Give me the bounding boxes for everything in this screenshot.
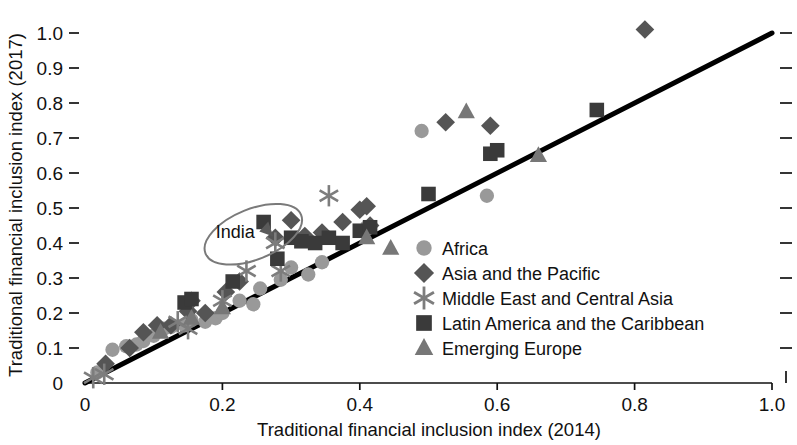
x-tick-label: 0.2 [209,394,235,415]
data-point-circle [246,297,260,311]
data-point-circle [480,189,494,203]
data-point-circle [105,343,119,357]
asterisk-icon [414,287,434,310]
y-tick-label: 0.6 [37,163,63,184]
legend-label: Africa [442,239,489,259]
y-tick-label: 0.9 [37,58,63,79]
legend-item-asia-and-the-pacific[interactable]: Asia and the Pacific [414,263,600,284]
y-tick-label: 0.5 [37,198,63,219]
data-point-square [335,236,350,251]
legend-item-emerging-europe[interactable]: Emerging Europe [415,338,582,359]
data-point-asterisk [320,185,338,206]
legend-label: Emerging Europe [442,339,582,359]
y-axis-title: Traditional financial inclusion index (2… [5,33,26,377]
diamond-icon [414,263,434,283]
data-point-circle [253,281,267,295]
data-point-triangle [458,102,475,118]
legend-item-latin-america-and-the-caribbean[interactable]: Latin America and the Caribbean [416,314,704,334]
data-point-square [225,274,240,289]
circle-icon [416,240,431,255]
x-tick-label: 0 [80,394,91,415]
data-point-square [184,292,199,307]
data-point-diamond [333,213,352,232]
data-point-circle [414,124,428,138]
data-point-diamond [436,113,455,132]
legend-item-africa[interactable]: Africa [416,239,489,259]
data-point-diamond [481,116,500,135]
data-point-circle [232,294,246,308]
series-middle-east-and-central-asia [84,185,338,388]
legend-label: Asia and the Pacific [442,264,600,284]
x-tick-label: 0.4 [347,394,374,415]
legend: AfricaAsia and the PacificMiddle East an… [414,239,704,359]
triangle-icon [415,338,434,355]
data-point-diamond [282,211,301,230]
square-icon [416,315,432,331]
y-tick-label: 0 [52,373,63,394]
data-point-square [421,187,436,202]
legend-label: Middle East and Central Asia [442,289,674,309]
data-point-square [294,234,309,249]
data-point-circle [301,267,315,281]
y-tick-label: 0.4 [37,233,64,254]
data-point-diamond [636,20,655,39]
y-tick-label: 0.1 [37,338,63,359]
series-africa [90,124,494,380]
data-point-square [308,236,323,251]
legend-item-middle-east-and-central-asia[interactable]: Middle East and Central Asia [414,287,674,310]
data-point-square [490,143,505,158]
x-tick-label: 1.0 [759,394,785,415]
data-point-circle [315,255,329,269]
y-tick-label: 0.3 [37,268,63,289]
x-axis-title: Traditional financial inclusion index (2… [257,419,601,440]
india-annotation-label: India [216,222,256,242]
data-point-square [322,230,337,245]
y-tick-label: 0.7 [37,128,63,149]
scatter-chart: 00.10.20.30.40.50.60.70.80.91.000.20.40.… [0,0,797,445]
legend-label: Latin America and the Caribbean [442,314,704,334]
y-tick-label: 0.2 [37,303,63,324]
y-tick-label: 0.8 [37,93,63,114]
data-point-triangle [382,239,399,255]
x-tick-label: 0.8 [621,394,647,415]
data-point-triangle [214,298,231,314]
y-tick-label: 1.0 [37,23,63,44]
data-point-square [590,103,605,118]
x-tick-label: 0.6 [484,394,510,415]
chart-canvas: 00.10.20.30.40.50.60.70.80.91.000.20.40.… [0,0,797,445]
